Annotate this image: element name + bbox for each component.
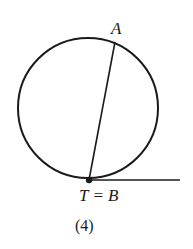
- circle: [18, 38, 158, 178]
- point-t-equals-b-label: T = B: [79, 187, 119, 204]
- chord-ta: [89, 42, 115, 180]
- diagram-canvas: [0, 0, 193, 249]
- figure-caption: (4): [75, 218, 94, 234]
- point-t-dot: [86, 177, 92, 183]
- point-a-label: A: [111, 20, 121, 37]
